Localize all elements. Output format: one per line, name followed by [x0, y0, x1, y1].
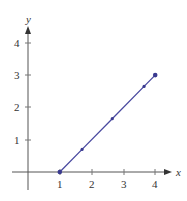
data-point-marker: [142, 85, 145, 88]
x-axis-label: x: [175, 166, 181, 178]
x-tick-label: 3: [121, 178, 127, 190]
series-line: [58, 73, 158, 175]
data-point-marker: [58, 170, 63, 175]
y-tick-label: 2: [14, 101, 20, 113]
chart: x y 1 2 3 4 1 2 3 4: [0, 0, 187, 201]
data-point-marker: [80, 148, 83, 151]
y-axis-arrow-icon: [25, 26, 31, 34]
y-tick-label: 1: [14, 134, 20, 146]
y-axis-label: y: [25, 13, 31, 25]
x-axis-arrow-icon: [164, 169, 172, 175]
y-tick-label: 3: [14, 69, 20, 81]
data-point-marker: [111, 117, 114, 120]
x-tick-label: 4: [152, 178, 158, 190]
x-tick-label: 1: [57, 178, 63, 190]
x-tick-label: 2: [89, 178, 95, 190]
data-point-marker: [153, 73, 158, 78]
y-tick-label: 4: [14, 37, 20, 49]
